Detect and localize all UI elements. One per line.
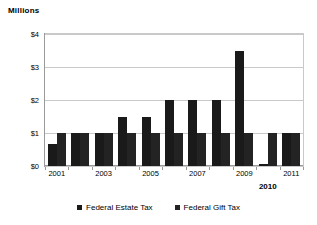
legend-item[interactable]: Federal Gift Tax: [175, 203, 240, 212]
bar-group: [92, 34, 115, 166]
x-axis-tick-label: 2005: [142, 169, 159, 178]
bar-group: [209, 34, 232, 166]
bar-federal-estate-tax: [259, 164, 268, 166]
bar-federal-gift-tax: [57, 133, 66, 166]
bar-group: [162, 34, 185, 166]
bar-federal-estate-tax: [282, 133, 291, 166]
bar-group: [68, 34, 91, 166]
y-axis-tick-label: $1: [5, 129, 44, 138]
bar-federal-estate-tax: [95, 133, 104, 166]
bar-group: [186, 34, 209, 166]
bar-federal-gift-tax: [80, 133, 89, 166]
x-axis-tick-label: 2011: [283, 169, 299, 178]
chart-container: Millions $0$1$2$3$4 20012003200520072009…: [0, 0, 317, 225]
bar-federal-estate-tax: [188, 100, 197, 166]
y-axis-tick-label: $2: [5, 96, 44, 105]
bar-federal-estate-tax: [165, 100, 174, 166]
bar-federal-estate-tax: [212, 100, 221, 166]
legend-label: Federal Gift Tax: [184, 203, 240, 212]
y-axis-tick-label: $0: [5, 162, 44, 171]
y-axis-tick-label: $3: [5, 63, 44, 72]
bar-federal-gift-tax: [221, 133, 230, 166]
bar-federal-gift-tax: [151, 133, 160, 166]
bar-group: [256, 34, 279, 166]
bar-federal-gift-tax: [291, 133, 300, 166]
x-axis-tick-label: 2010: [259, 182, 277, 191]
y-axis-tick-label: $4: [5, 30, 44, 39]
bar-federal-gift-tax: [174, 133, 183, 166]
bar-federal-estate-tax: [71, 133, 80, 166]
legend-label: Federal Estate Tax: [86, 203, 153, 212]
chart-legend: Federal Estate TaxFederal Gift Tax: [0, 203, 317, 212]
bar-group: [233, 34, 256, 166]
bar-group: [280, 34, 303, 166]
bar-federal-estate-tax: [118, 117, 127, 167]
bar-group: [45, 34, 68, 166]
x-axis-tick-labels: 2001200320052007200920102011: [45, 169, 303, 181]
x-axis-tick-label: 2007: [189, 169, 206, 178]
legend-swatch-icon: [175, 205, 180, 210]
bar-federal-estate-tax: [48, 144, 57, 166]
legend-item[interactable]: Federal Estate Tax: [77, 203, 153, 212]
bar-federal-gift-tax: [244, 133, 253, 166]
bar-federal-gift-tax: [197, 133, 206, 166]
bar-group: [139, 34, 162, 166]
legend-swatch-icon: [77, 205, 82, 210]
bar-federal-gift-tax: [127, 133, 136, 166]
x-axis-tick-label: 2009: [236, 169, 253, 178]
bar-federal-gift-tax: [268, 133, 277, 166]
bar-group: [115, 34, 138, 166]
bar-series-layer: [45, 34, 303, 166]
bar-federal-estate-tax: [142, 117, 151, 167]
bar-federal-gift-tax: [104, 133, 113, 166]
x-axis-tick-label: 2001: [48, 169, 65, 178]
x-axis-tick-label: 2003: [95, 169, 112, 178]
x-axis-tick-mark: [303, 167, 304, 170]
bar-federal-estate-tax: [235, 51, 244, 167]
y-axis-unit-label: Millions: [8, 6, 39, 15]
